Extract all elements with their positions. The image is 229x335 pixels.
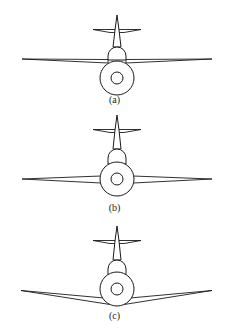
caption-a: (a) <box>0 94 229 106</box>
left-wing <box>21 291 110 305</box>
figure-c: (c) <box>0 220 229 335</box>
right-wing <box>133 176 212 183</box>
cockpit-canopy <box>108 47 126 60</box>
left-wing <box>22 176 101 183</box>
propeller-hub <box>111 72 123 84</box>
caption-c: (c) <box>0 310 229 322</box>
right-wing <box>126 59 212 63</box>
propeller-hub <box>111 283 123 295</box>
right-wing <box>124 291 212 305</box>
propeller-hub <box>111 173 123 185</box>
caption-b: (b) <box>0 202 229 214</box>
figure-a: (a) <box>0 0 229 110</box>
left-wing <box>22 59 108 63</box>
figure-b: (b) <box>0 110 229 220</box>
